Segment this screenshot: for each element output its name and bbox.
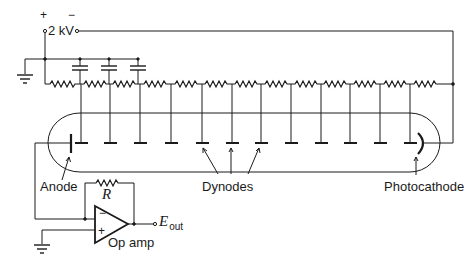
supply-plus-label: + bbox=[40, 9, 47, 21]
output-voltage-label: Eout bbox=[159, 214, 182, 229]
opamp-plus-label: + bbox=[98, 225, 105, 237]
resistor-divider-chain bbox=[45, 81, 454, 87]
bypass-capacitors bbox=[45, 58, 146, 84]
photocathode-label: Photocathode bbox=[384, 180, 464, 193]
hv-supply bbox=[43, 29, 453, 143]
dynodes-label: Dynodes bbox=[202, 180, 253, 193]
supply-minus-label: − bbox=[68, 9, 75, 21]
opamp-minus-label: − bbox=[99, 207, 106, 219]
output-voltage-main: E bbox=[159, 213, 168, 229]
supply-voltage-label: 2 kV bbox=[48, 24, 74, 37]
ground-symbol-top bbox=[17, 58, 46, 83]
output-voltage-subscript: out bbox=[169, 221, 183, 232]
pmt-circuit-schematic bbox=[0, 0, 471, 265]
opamp-label: Op amp bbox=[108, 236, 154, 249]
photocathode bbox=[418, 133, 423, 154]
anode-label: Anode bbox=[40, 180, 78, 193]
feedback-resistor-label: R bbox=[102, 187, 111, 202]
label-arrows bbox=[62, 148, 418, 180]
anode bbox=[35, 134, 71, 219]
